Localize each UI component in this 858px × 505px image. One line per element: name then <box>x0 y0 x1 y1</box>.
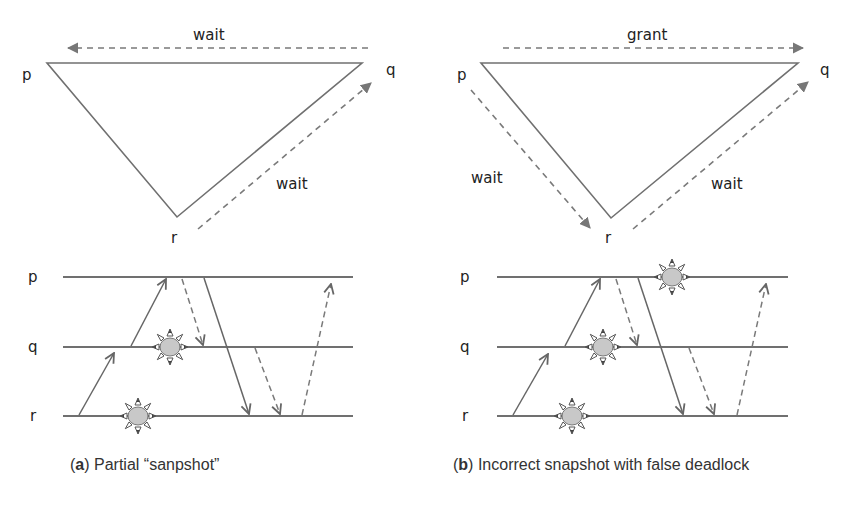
marker-p-to-q <box>616 279 637 345</box>
node-label-p: p <box>22 66 32 84</box>
edge-label-wait-top: wait <box>193 26 225 44</box>
node-label-r: r <box>605 229 612 247</box>
caption-a-letter: a <box>75 456 84 473</box>
panel-a-timeline: p q r <box>28 268 353 434</box>
caption-b-letter: b <box>458 456 468 473</box>
process-label-p: p <box>460 268 470 286</box>
node-label-r: r <box>171 229 178 247</box>
snapshot-icon-q <box>152 329 188 365</box>
snapshot-icon-p <box>654 259 690 295</box>
process-label-q: q <box>460 338 470 356</box>
caption-b: (b) Incorrect snapshot with false deadlo… <box>453 456 749 474</box>
edge-label-grant-top: grant <box>627 26 667 44</box>
marker-r-to-p <box>737 284 766 415</box>
panel-a-graph: p q r wait wait <box>22 26 396 247</box>
message-r-to-q <box>513 354 548 415</box>
marker-q-to-r <box>689 348 714 414</box>
panel-b-timeline: p q r <box>460 259 788 434</box>
edge-r-to-q-wait <box>633 82 808 229</box>
node-label-p: p <box>457 66 467 84</box>
triangle-pqr <box>47 63 362 217</box>
marker-q-to-r <box>255 348 280 414</box>
snapshot-icon-r <box>554 398 590 434</box>
node-label-q: q <box>820 61 830 79</box>
edge-label-wait-right: wait <box>276 175 308 193</box>
process-label-p: p <box>28 268 38 286</box>
triangle-pqr <box>481 63 798 218</box>
caption-b-text: Incorrect snapshot with false deadlock <box>473 456 749 473</box>
message-r-to-q <box>79 353 114 415</box>
process-label-q: q <box>28 338 38 356</box>
snapshot-icon-q <box>585 329 621 365</box>
deadlock-snapshot-figure: p q r wait wait p q r grant wait wait p … <box>0 0 858 505</box>
snapshot-icon-r <box>120 398 156 434</box>
edge-label-wait-right: wait <box>711 175 743 193</box>
panel-b-graph: p q r grant wait wait <box>457 26 830 247</box>
edge-p-to-r-wait <box>471 90 590 228</box>
marker-p-to-q <box>182 279 203 345</box>
edge-r-to-q-wait <box>198 83 371 229</box>
process-label-r: r <box>30 407 37 425</box>
caption-a-text: Partial “sanpshot” <box>90 456 220 473</box>
node-label-q: q <box>386 61 396 79</box>
edge-label-wait-left: wait <box>471 169 503 187</box>
caption-a: (a) Partial “sanpshot” <box>70 456 219 474</box>
marker-r-to-p <box>302 284 331 415</box>
message-q-to-p <box>565 279 600 346</box>
process-label-r: r <box>462 407 469 425</box>
